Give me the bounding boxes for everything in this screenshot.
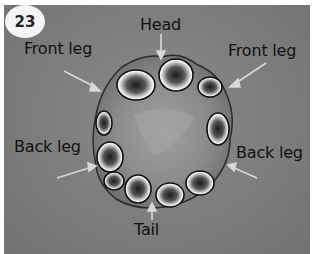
label-front-leg-left: Front leg xyxy=(24,41,92,57)
label-back-leg-left: Back leg xyxy=(14,139,81,155)
turtle-shell xyxy=(93,55,232,208)
label-back-leg-right: Back leg xyxy=(236,145,303,161)
label-head: Head xyxy=(140,17,181,33)
photo: 23 xyxy=(4,5,310,254)
label-tail: Tail xyxy=(134,222,159,238)
label-front-leg-right: Front leg xyxy=(228,43,296,59)
